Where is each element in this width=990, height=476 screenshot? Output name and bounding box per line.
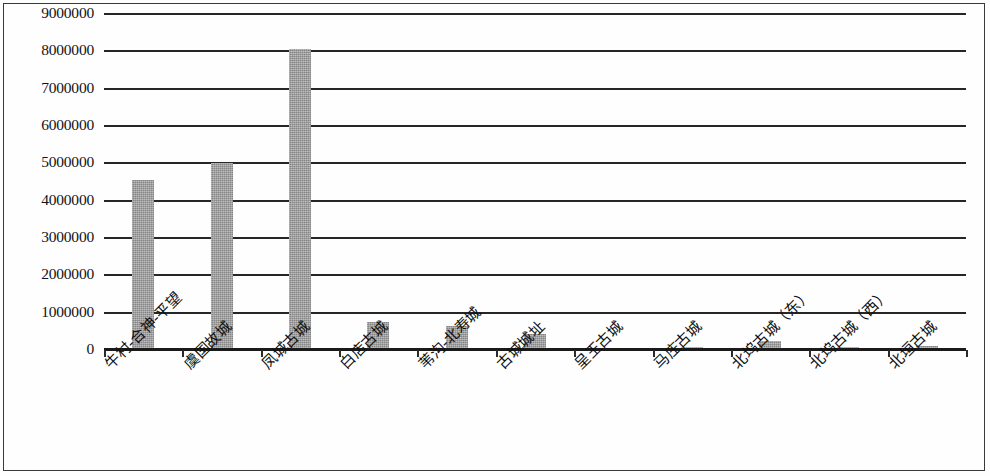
y-axis-tick-label: 6000000 [2,117,94,133]
bar [289,49,311,350]
y-axis-tick-label: 1000000 [2,304,94,320]
y-axis-tick-label: 4000000 [2,192,94,208]
bar-chart-figure: 9000000800000070000006000000500000040000… [0,0,990,476]
y-axis-tick-label: 2000000 [2,266,94,282]
plot-area [104,14,966,350]
y-axis-tick-label: 7000000 [2,80,94,96]
y-axis-tick-label: 5000000 [2,154,94,170]
y-axis-tick-label: 9000000 [2,5,94,21]
y-axis-tick-label: 8000000 [2,42,94,58]
x-axis-category-labels: 牛村-合神-平望虞国故城凤城古城白店古城苇沟-北寿城古城城址呈王古城马庄古城北坞… [0,352,990,476]
bar-series [104,14,966,350]
y-axis-tick-label: 3000000 [2,229,94,245]
